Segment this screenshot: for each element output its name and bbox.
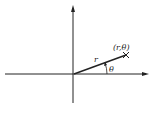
x-axis-arrow-icon xyxy=(142,72,149,76)
radius-label: r xyxy=(94,55,99,64)
y-axis-arrow-icon xyxy=(71,5,75,12)
polar-diagram: (r,θ) r θ xyxy=(0,0,155,117)
y-axis xyxy=(71,5,75,103)
angle-label: θ xyxy=(109,65,114,74)
point-label: (r,θ) xyxy=(113,43,130,52)
radius-ray xyxy=(74,55,126,74)
